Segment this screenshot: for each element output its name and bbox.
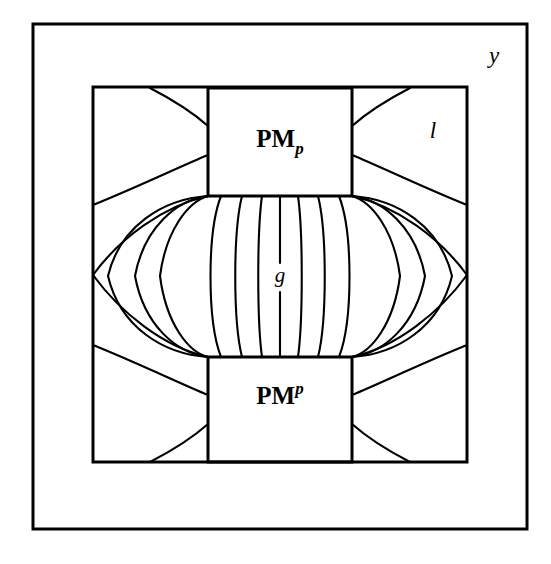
flux-loop-left-outer <box>108 196 208 357</box>
bottom-magnet-label: PMp <box>256 379 303 409</box>
flux-loop-left-mid <box>135 196 208 357</box>
flux-arc-bottomright-1 <box>352 424 410 462</box>
outer-frame-label: y <box>487 43 500 68</box>
bottom-magnet-base: PM <box>256 382 295 409</box>
gap-flux-line-6 <box>318 196 325 357</box>
gap-flux-line-5 <box>298 196 302 357</box>
top-magnet-label: PMp <box>256 125 303 158</box>
flux-loop-right-outer <box>352 196 452 357</box>
diagram-canvas: PMp PMp g l y <box>0 0 551 564</box>
yoke-label: l <box>430 118 436 143</box>
flux-loop-left-inner <box>160 196 208 357</box>
flux-arc-topleft-1 <box>150 88 208 126</box>
gap-flux-line-2 <box>235 196 242 357</box>
top-magnet-subscript: p <box>293 139 304 158</box>
gap-label: g <box>275 263 286 287</box>
bottom-magnet-rect <box>208 357 352 462</box>
magnet-flux-diagram: PMp PMp g l y <box>0 0 551 564</box>
flux-loop-right-mid <box>352 196 425 357</box>
flux-arc-topright-1 <box>352 88 410 126</box>
gap-flux-line-3 <box>258 196 262 357</box>
flux-loop-right-lower <box>352 196 400 357</box>
gap-flux-line-1 <box>211 196 222 357</box>
gap-flux-line-7 <box>339 196 350 357</box>
bottom-magnet-superscript: p <box>293 379 304 398</box>
top-magnet-base: PM <box>256 125 295 152</box>
flux-arc-bottomleft-1 <box>150 424 208 462</box>
